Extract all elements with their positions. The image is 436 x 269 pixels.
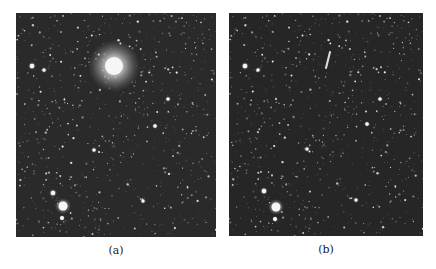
- star-field-image-a: [16, 13, 216, 237]
- star-field-image-b: [229, 13, 423, 236]
- caption-b: (b): [306, 243, 346, 256]
- caption-a: (a): [96, 244, 136, 257]
